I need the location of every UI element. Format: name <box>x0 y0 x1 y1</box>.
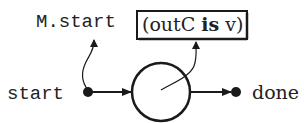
condition-box: (outC is v) <box>137 11 247 39</box>
svg-text:(outC is v): (outC is v) <box>142 13 243 35</box>
condition-var: outC <box>149 13 195 35</box>
condition-value: v <box>224 13 236 35</box>
condition-open-paren: ( <box>142 13 149 35</box>
condition-close-paren: ) <box>236 13 243 35</box>
done-label: done <box>252 81 299 103</box>
start-dot-icon <box>83 87 93 97</box>
condition-keyword: is <box>201 13 219 35</box>
diagram-canvas: M.start (outC is v) start done <box>0 0 304 123</box>
done-dot-icon <box>231 87 241 97</box>
start-label: start <box>7 83 64 105</box>
state-circle <box>132 63 190 121</box>
diagram: M.start (outC is v) start done <box>0 0 304 123</box>
state-annotation-arrow <box>161 42 196 90</box>
start-annotation-arrow <box>83 40 95 90</box>
state-ref-label: M.start <box>36 11 116 33</box>
